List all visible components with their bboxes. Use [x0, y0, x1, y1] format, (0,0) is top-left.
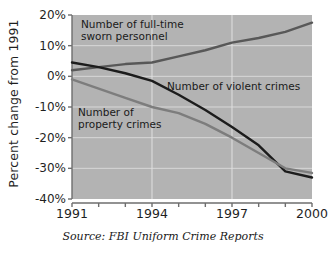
x-tick-label: 1997 [207, 206, 257, 221]
series-label-violent-crimes: Number of violent crimes [167, 81, 300, 93]
x-tick-label: 2000 [287, 206, 332, 221]
series-label-property-crimes: Number of property crimes [78, 107, 161, 130]
x-tick-label: 1991 [47, 206, 97, 221]
series-label-sworn-personnel: Number of full-time sworn personnel [81, 19, 184, 42]
source-note: Source: FBI Uniform Crime Reports [0, 230, 326, 243]
x-tick-label: 1994 [127, 206, 177, 221]
